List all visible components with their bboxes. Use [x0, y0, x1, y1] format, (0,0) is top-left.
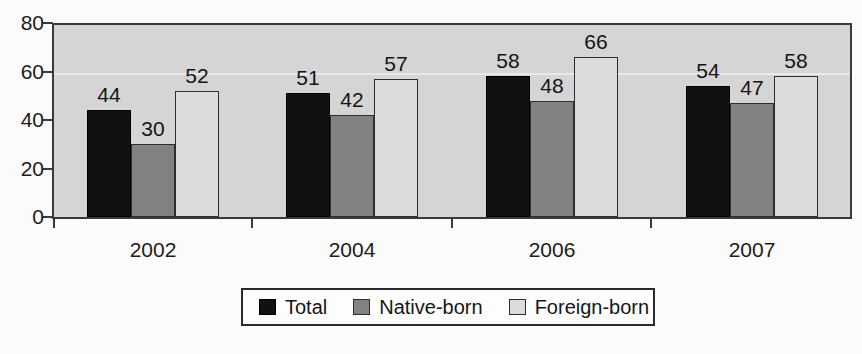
bar-foreign-2007 — [774, 76, 818, 217]
bar-foreign-2004 — [374, 79, 418, 217]
y-axis-label: 40 — [21, 109, 44, 130]
x-axis-tick — [650, 218, 652, 228]
legend-item-total: Total — [259, 296, 327, 319]
y-axis-label: 20 — [21, 158, 44, 179]
y-axis-label: 80 — [21, 12, 44, 33]
gridline-60 — [53, 73, 850, 75]
x-axis-label-2006: 2006 — [529, 238, 576, 262]
x-axis-tick — [451, 218, 453, 228]
bar-total-2004 — [286, 93, 330, 217]
bar-total-2006 — [486, 76, 530, 217]
x-axis-label-2004: 2004 — [329, 238, 376, 262]
legend: TotalNative-bornForeign-born — [241, 288, 655, 326]
bar-value-total-2002: 44 — [97, 83, 120, 107]
legend-items: TotalNative-bornForeign-born — [243, 290, 653, 324]
bar-total-2002 — [87, 110, 131, 217]
y-axis-tick — [43, 168, 53, 170]
bar-value-native-2002: 30 — [141, 117, 164, 141]
x-axis-label-2007: 2007 — [729, 238, 776, 262]
bar-value-native-2006: 48 — [540, 74, 563, 98]
y-axis-tick — [43, 71, 53, 73]
bar-chart: 020406080 2002200420062007 4430525142575… — [0, 0, 862, 354]
bar-value-foreign-2004: 57 — [384, 52, 407, 76]
bar-value-foreign-2006: 66 — [584, 30, 607, 54]
y-axis-tick — [43, 119, 53, 121]
legend-label: Foreign-born — [535, 296, 650, 319]
bar-native-2006 — [530, 101, 574, 217]
bar-native-2002 — [131, 144, 175, 217]
bar-value-total-2004: 51 — [296, 66, 319, 90]
legend-item-native: Native-born — [353, 296, 482, 319]
y-axis-label: 0 — [32, 206, 44, 227]
bar-value-total-2007: 54 — [696, 59, 719, 83]
legend-label: Total — [285, 296, 327, 319]
bar-foreign-2002 — [175, 91, 219, 217]
bar-value-total-2006: 58 — [496, 49, 519, 73]
x-axis-tick — [251, 218, 253, 228]
x-axis-tick — [53, 218, 55, 228]
bar-foreign-2006 — [574, 57, 618, 217]
bar-total-2007 — [686, 86, 730, 217]
bar-native-2007 — [730, 103, 774, 217]
legend-swatch-total-icon — [259, 299, 276, 315]
legend-swatch-native-icon — [353, 299, 370, 315]
bar-value-native-2004: 42 — [340, 88, 363, 112]
bar-native-2004 — [330, 115, 374, 217]
x-axis-label-2002: 2002 — [130, 238, 177, 262]
legend-item-foreign: Foreign-born — [509, 296, 650, 319]
y-axis-tick — [43, 22, 53, 24]
legend-label: Native-born — [379, 296, 482, 319]
bar-value-native-2007: 47 — [740, 76, 763, 100]
legend-swatch-foreign-icon — [509, 299, 526, 315]
y-axis-label: 60 — [21, 61, 44, 82]
bar-value-foreign-2007: 58 — [784, 49, 807, 73]
bar-value-foreign-2002: 52 — [185, 64, 208, 88]
